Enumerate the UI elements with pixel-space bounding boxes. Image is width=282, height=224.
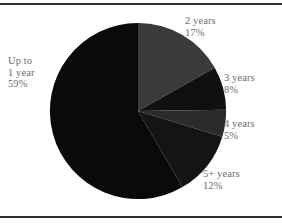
pie-label-3-years: 3 years 8%: [224, 72, 255, 95]
pie-label-4-years: 4 years 5%: [224, 118, 255, 141]
pie-label-2-years-name: 2 years: [185, 15, 216, 27]
pie-label-5-plus-years: 5+ years 12%: [203, 168, 240, 191]
pie-label-up-to-1-year-value: 59%: [8, 78, 35, 90]
pie-label-4-years-value: 5%: [224, 130, 255, 142]
pie-label-2-years-value: 17%: [185, 27, 216, 39]
figure-bottom-rule: [0, 216, 282, 218]
pie-label-5-plus-years-value: 12%: [203, 180, 240, 192]
pie-slices: [50, 23, 226, 199]
pie-label-4-years-name: 4 years: [224, 118, 255, 130]
pie-label-2-years: 2 years 17%: [185, 15, 216, 38]
pie-label-3-years-value: 8%: [224, 84, 255, 96]
pie-chart-plot-area: [49, 22, 227, 200]
pie-label-5-plus-years-name: 5+ years: [203, 168, 240, 180]
pie-chart-svg: [49, 22, 227, 200]
pie-label-up-to-1-year: Up to 1 year 59%: [8, 55, 35, 90]
figure-top-rule: [0, 3, 282, 5]
pie-label-up-to-1-year-line2: 1 year: [8, 67, 35, 79]
pie-label-3-years-name: 3 years: [224, 72, 255, 84]
pie-label-up-to-1-year-line1: Up to: [8, 55, 35, 67]
pie-chart-figure: Up to 1 year 59% 2 years 17% 3 years 8% …: [0, 0, 282, 224]
